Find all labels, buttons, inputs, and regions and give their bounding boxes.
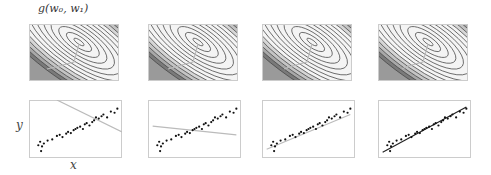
x-axis-label: x — [70, 158, 77, 172]
scatter-fit-plot-2 — [148, 100, 241, 158]
contour-plot-4 — [378, 24, 468, 81]
contour-plot-3 — [262, 24, 352, 81]
contour-plot-1 — [29, 24, 119, 81]
y-axis-label: y — [16, 118, 23, 132]
scatter-fit-plot-4 — [378, 100, 471, 158]
scatter-fit-plot-1 — [29, 100, 122, 158]
cost-function-title: g(w₀, w₁) — [38, 2, 88, 15]
contour-plot-2 — [148, 24, 238, 81]
scatter-fit-plot-3 — [262, 100, 355, 158]
